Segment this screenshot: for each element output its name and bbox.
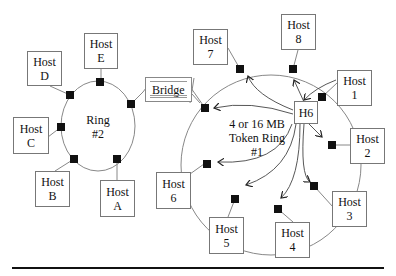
- host-8-box: Host 8: [281, 14, 316, 50]
- host-b-box: Host B: [35, 171, 70, 207]
- ring-2-label-line2: #2: [81, 127, 115, 141]
- host-8-line1: Host: [287, 18, 310, 32]
- host-4-line2: 4: [290, 240, 296, 254]
- host-6-box: Host 6: [156, 172, 191, 209]
- host-7-line2: 7: [208, 47, 214, 61]
- host-b-line2: B: [48, 189, 56, 203]
- host-8-line2: 8: [296, 32, 302, 46]
- host-4-line1: Host: [281, 226, 304, 240]
- host-e-box: Host E: [84, 33, 118, 69]
- host-h6-label: H6: [299, 106, 314, 120]
- host-5-line1: Host: [215, 222, 238, 236]
- host-e-line1: Host: [90, 37, 113, 51]
- host-a-line2: A: [113, 199, 122, 213]
- host-7-line1: Host: [199, 33, 222, 47]
- host-d-line1: Host: [33, 55, 56, 69]
- host-e-line2: E: [97, 51, 104, 65]
- host-d-line2: D: [40, 69, 49, 83]
- host-c-line2: C: [27, 136, 35, 150]
- host-3-line2: 3: [347, 209, 353, 223]
- host-a-line1: Host: [106, 185, 129, 199]
- ring-1-label-line3: #1: [222, 145, 292, 159]
- host-2-line1: Host: [356, 132, 379, 146]
- host-1-line2: 1: [352, 88, 358, 102]
- host-b-line1: Host: [41, 175, 64, 189]
- bridge-box: Bridge: [145, 77, 192, 102]
- host-c-line1: Host: [20, 122, 43, 136]
- ring-1-label: 4 or 16 MB Token Ring #1: [222, 117, 292, 159]
- host-6-line1: Host: [162, 177, 185, 191]
- host-2-box: Host 2: [350, 128, 385, 164]
- host-a-box: Host A: [100, 180, 135, 217]
- ring-2-label: Ring #2: [81, 113, 115, 141]
- host-6-line2: 6: [171, 191, 177, 205]
- ring-1-label-line1: 4 or 16 MB: [222, 117, 292, 131]
- ring-1-label-line2: Token Ring: [222, 131, 292, 145]
- bridge-bar-top: [150, 81, 187, 82]
- ring-2-label-line1: Ring: [81, 113, 115, 127]
- host-c-box: Host C: [13, 117, 49, 154]
- host-4-box: Host 4: [275, 222, 310, 258]
- host-3-box: Host 3: [332, 191, 367, 227]
- bridge-bar-bottom: [150, 95, 187, 96]
- host-h6-box: H6: [294, 101, 318, 124]
- host-2-line2: 2: [365, 146, 371, 160]
- host-5-line2: 5: [224, 236, 230, 250]
- host-1-line1: Host: [343, 74, 366, 88]
- host-1-box: Host 1: [337, 70, 372, 106]
- host-3-line1: Host: [338, 195, 361, 209]
- host-7-box: Host 7: [193, 29, 228, 65]
- host-d-box: Host D: [27, 51, 62, 86]
- bridge-bar-bottom2: [150, 97, 187, 98]
- host-5-box: Host 5: [209, 217, 244, 254]
